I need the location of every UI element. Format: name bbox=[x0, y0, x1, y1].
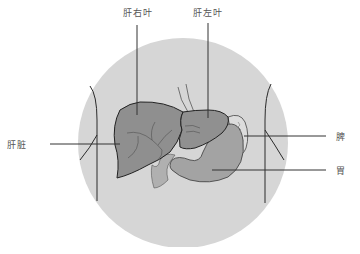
label-right-lobe: 肝右叶 bbox=[123, 6, 153, 19]
label-spleen: 脾 bbox=[336, 130, 346, 143]
label-stomach: 胃 bbox=[336, 164, 346, 177]
label-left-lobe: 肝左叶 bbox=[193, 6, 223, 19]
label-liver: 肝脏 bbox=[7, 138, 27, 151]
anatomy-diagram bbox=[0, 0, 360, 254]
